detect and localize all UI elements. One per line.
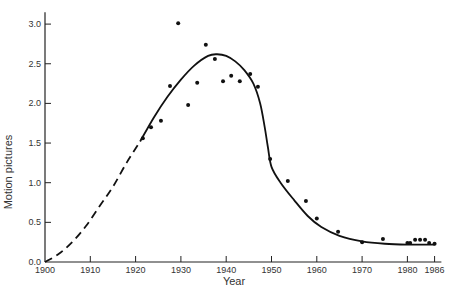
y-axis-title: Motion pictures — [2, 134, 14, 209]
data-point — [141, 136, 145, 140]
y-tick-label: 1.5 — [28, 138, 41, 148]
data-point — [336, 230, 340, 234]
y-tick-label: 1.0 — [28, 178, 41, 188]
x-tick-label: 1960 — [307, 265, 327, 275]
data-point — [286, 179, 290, 183]
data-point — [423, 238, 427, 242]
y-tick-label: 3.0 — [28, 19, 41, 29]
x-tick-label: 1986 — [425, 265, 445, 275]
x-tick-label: 1910 — [80, 265, 100, 275]
x-tick-label: 1900 — [35, 265, 55, 275]
solid-curve — [140, 54, 434, 244]
data-point — [229, 74, 233, 78]
data-point — [381, 237, 385, 241]
data-points — [141, 21, 437, 245]
axes: 0.00.51.01.52.02.53.01900191019201930194… — [28, 12, 444, 275]
data-point — [248, 72, 252, 76]
data-point — [360, 240, 364, 244]
line-chart: 0.00.51.01.52.02.53.01900191019201930194… — [0, 0, 457, 297]
x-tick-label: 1940 — [216, 265, 236, 275]
fitted-curves — [45, 54, 435, 262]
data-point — [408, 241, 412, 245]
data-point — [176, 21, 180, 25]
data-point — [268, 157, 272, 161]
x-axis-title: Year — [223, 275, 246, 287]
data-point — [221, 79, 225, 83]
data-point — [315, 216, 319, 220]
x-tick-label: 1970 — [352, 265, 372, 275]
data-point — [213, 57, 217, 61]
x-tick-label: 1920 — [126, 265, 146, 275]
data-point — [433, 242, 437, 246]
y-tick-label: 2.0 — [28, 98, 41, 108]
data-point — [195, 81, 199, 85]
y-tick-label: 2.5 — [28, 59, 41, 69]
x-tick-label: 1950 — [261, 265, 281, 275]
data-point — [186, 103, 190, 107]
data-point — [149, 125, 153, 129]
data-point — [159, 119, 163, 123]
data-point — [304, 199, 308, 203]
data-point — [413, 238, 417, 242]
data-point — [418, 238, 422, 242]
data-point — [238, 79, 242, 83]
y-tick-label: 0.5 — [28, 217, 41, 227]
x-tick-label: 1980 — [397, 265, 417, 275]
data-point — [168, 84, 172, 88]
data-point — [256, 85, 260, 89]
x-tick-label: 1930 — [171, 265, 191, 275]
dashed-curve — [45, 141, 140, 262]
data-point — [427, 241, 431, 245]
data-point — [204, 43, 208, 47]
